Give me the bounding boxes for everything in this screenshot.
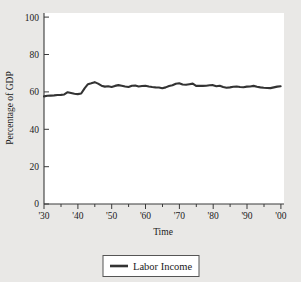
legend-label-labor-income: Labor Income: [133, 261, 193, 272]
y-tick-label-80: 80: [30, 50, 40, 60]
y-axis-title: Percentage of GDP: [5, 71, 15, 144]
x-tick-label-1940: '40: [72, 211, 83, 221]
chart-svg: 100 80 60 40 20 0 '30 '40: [0, 0, 301, 282]
chart-legend: Labor Income: [103, 256, 199, 277]
y-tick-label-0: 0: [34, 199, 39, 209]
x-axis-title: Time: [153, 227, 173, 237]
y-tick-label-60: 60: [30, 87, 40, 97]
x-tick-label-1980: '80: [208, 211, 219, 221]
y-tick-label-40: 40: [30, 125, 40, 135]
x-tick-label-1990: '90: [241, 211, 252, 221]
x-tick-label-1950: '50: [106, 211, 117, 221]
y-tick-label-100: 100: [25, 13, 40, 23]
x-tick-label-1960: '60: [140, 211, 151, 221]
x-tick-label-2000: '00: [275, 211, 286, 221]
x-tick-label-1970: '70: [174, 211, 185, 221]
plot-area-background: [44, 13, 284, 204]
x-tick-label-1930: '30: [38, 211, 49, 221]
chart-figure: 100 80 60 40 20 0 '30 '40: [0, 0, 301, 282]
y-tick-label-20: 20: [30, 162, 40, 172]
